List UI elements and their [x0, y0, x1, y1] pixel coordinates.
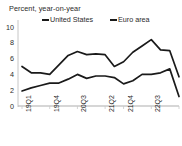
y-tick-label: 0 — [2, 102, 14, 111]
x-tick-label: 21Q4 — [127, 95, 134, 112]
series-layer — [22, 40, 179, 97]
x-tick-label: 19Q1 — [25, 95, 32, 112]
inflation-line-chart: Percent, year-on-year United States Euro… — [0, 0, 182, 146]
x-tick-label: 20Q3 — [80, 95, 87, 112]
y-tick-label: 6 — [2, 54, 14, 63]
y-tick-label: 10 — [2, 23, 14, 32]
x-tick-label: 22Q3 — [154, 95, 161, 112]
x-tick-label: 21Q2 — [108, 95, 115, 112]
x-tick-label: 19Q4 — [53, 95, 60, 112]
plot-area — [0, 0, 182, 146]
y-tick-label: 4 — [2, 70, 14, 79]
y-tick-label: 2 — [2, 86, 14, 95]
series-line-united-states — [22, 40, 179, 77]
y-tick-label: 8 — [2, 38, 14, 47]
